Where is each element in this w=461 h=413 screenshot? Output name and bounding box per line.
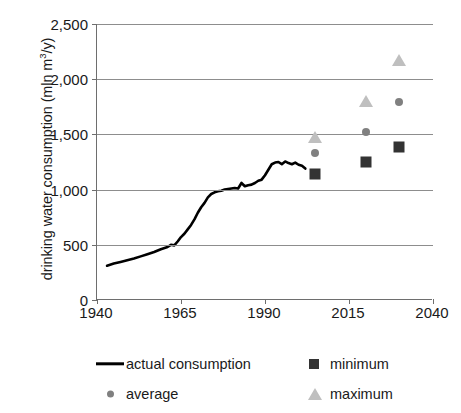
average-marker — [311, 149, 319, 157]
x-tick-mark — [433, 299, 434, 304]
y-tick-label: 1,000 — [26, 181, 88, 198]
y-tick-mark — [92, 79, 97, 80]
average-marker — [362, 128, 370, 136]
x-tick-mark — [265, 299, 266, 304]
x-tick-label: 2015 — [331, 304, 364, 321]
actual-consumption-polyline — [107, 161, 305, 265]
legend-label: maximum — [330, 386, 393, 402]
legend-item-maximum[interactable]: maximum — [300, 382, 460, 406]
legend-item-minimum[interactable]: minimum — [300, 352, 460, 376]
y-tick-label: 2,500 — [26, 16, 88, 33]
legend-circle-icon — [107, 391, 114, 398]
minimum-marker — [394, 141, 405, 152]
gridline — [97, 190, 433, 191]
legend-item-average[interactable]: average — [96, 382, 256, 406]
maximum-marker — [308, 131, 322, 143]
legend-label: minimum — [330, 356, 389, 372]
x-tick-label: 1965 — [163, 304, 196, 321]
x-tick-mark — [349, 299, 350, 304]
legend-line-icon — [96, 362, 124, 365]
x-tick-label: 1940 — [79, 304, 112, 321]
gridline — [97, 245, 433, 246]
legend-triangle-icon — [308, 388, 322, 400]
plot-area — [96, 24, 432, 300]
legend-label: actual consumption — [126, 356, 251, 372]
legend-label: average — [126, 386, 178, 402]
legend-square-icon — [309, 359, 319, 369]
y-tick-label: 1,500 — [26, 126, 88, 143]
average-marker — [395, 98, 403, 106]
x-tick-mark — [181, 299, 182, 304]
x-tick-label: 1990 — [247, 304, 280, 321]
maximum-marker — [359, 95, 373, 107]
gridline — [97, 134, 433, 135]
minimum-marker — [310, 168, 321, 179]
water-consumption-chart: drinking water consumption (mln m3/y) 05… — [0, 0, 461, 413]
gridline — [97, 24, 433, 25]
x-tick-label: 2040 — [415, 304, 448, 321]
legend-item-actual-consumption[interactable]: actual consumption — [96, 352, 256, 376]
x-tick-mark — [97, 299, 98, 304]
maximum-marker — [392, 54, 406, 66]
actual-consumption-line — [97, 24, 433, 300]
y-tick-mark — [92, 245, 97, 246]
y-tick-mark — [92, 190, 97, 191]
gridline — [97, 79, 433, 80]
minimum-marker — [360, 157, 371, 168]
y-tick-label: 500 — [26, 236, 88, 253]
y-tick-label: 2,000 — [26, 71, 88, 88]
y-tick-mark — [92, 134, 97, 135]
chart-legend: actual consumptionminimumaveragemaximum — [0, 348, 461, 413]
y-tick-mark — [92, 24, 97, 25]
